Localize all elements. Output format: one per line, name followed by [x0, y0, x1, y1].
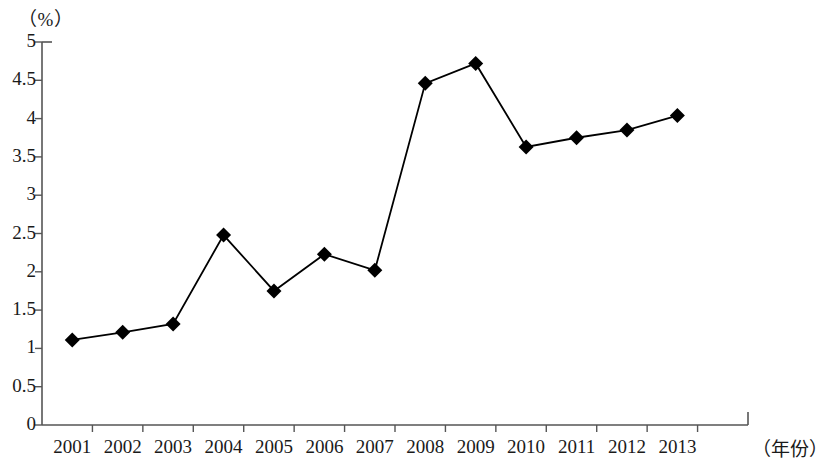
y-axis-tick-label: 4 [0, 107, 36, 129]
data-point-marker [670, 108, 685, 123]
axes [42, 42, 748, 425]
data-point-marker [569, 130, 584, 145]
data-point-marker [619, 123, 634, 138]
data-point-marker [519, 139, 534, 154]
data-point-marker [468, 56, 483, 71]
x-axis-ticks [92, 425, 697, 432]
y-axis-tick-label: 2.5 [0, 222, 36, 244]
y-axis-tick-label: 2 [0, 260, 36, 282]
x-axis-unit-label: （年份） [752, 434, 820, 461]
y-axis-tick-label: 0.5 [0, 375, 36, 397]
y-axis-tick-label: 5 [0, 30, 36, 52]
series-line [72, 63, 677, 340]
y-axis-tick-label: 4.5 [0, 68, 36, 90]
data-series [72, 63, 677, 340]
y-axis-tick-label: 1 [0, 336, 36, 358]
data-point-marker [65, 332, 80, 347]
y-axis-ticks [35, 42, 42, 425]
y-axis-tick-label: 3 [0, 183, 36, 205]
data-point-marker [367, 263, 382, 278]
data-point-marker [166, 316, 181, 331]
y-axis-tick-label: 1.5 [0, 298, 36, 320]
data-point-marker [317, 247, 332, 262]
data-markers [65, 56, 685, 348]
data-point-marker [115, 325, 130, 340]
y-axis-tick-label: 0 [0, 413, 36, 435]
y-axis-tick-label: 3.5 [0, 145, 36, 167]
x-axis-tick-label: 2013 [647, 436, 707, 458]
data-point-marker [418, 76, 433, 91]
